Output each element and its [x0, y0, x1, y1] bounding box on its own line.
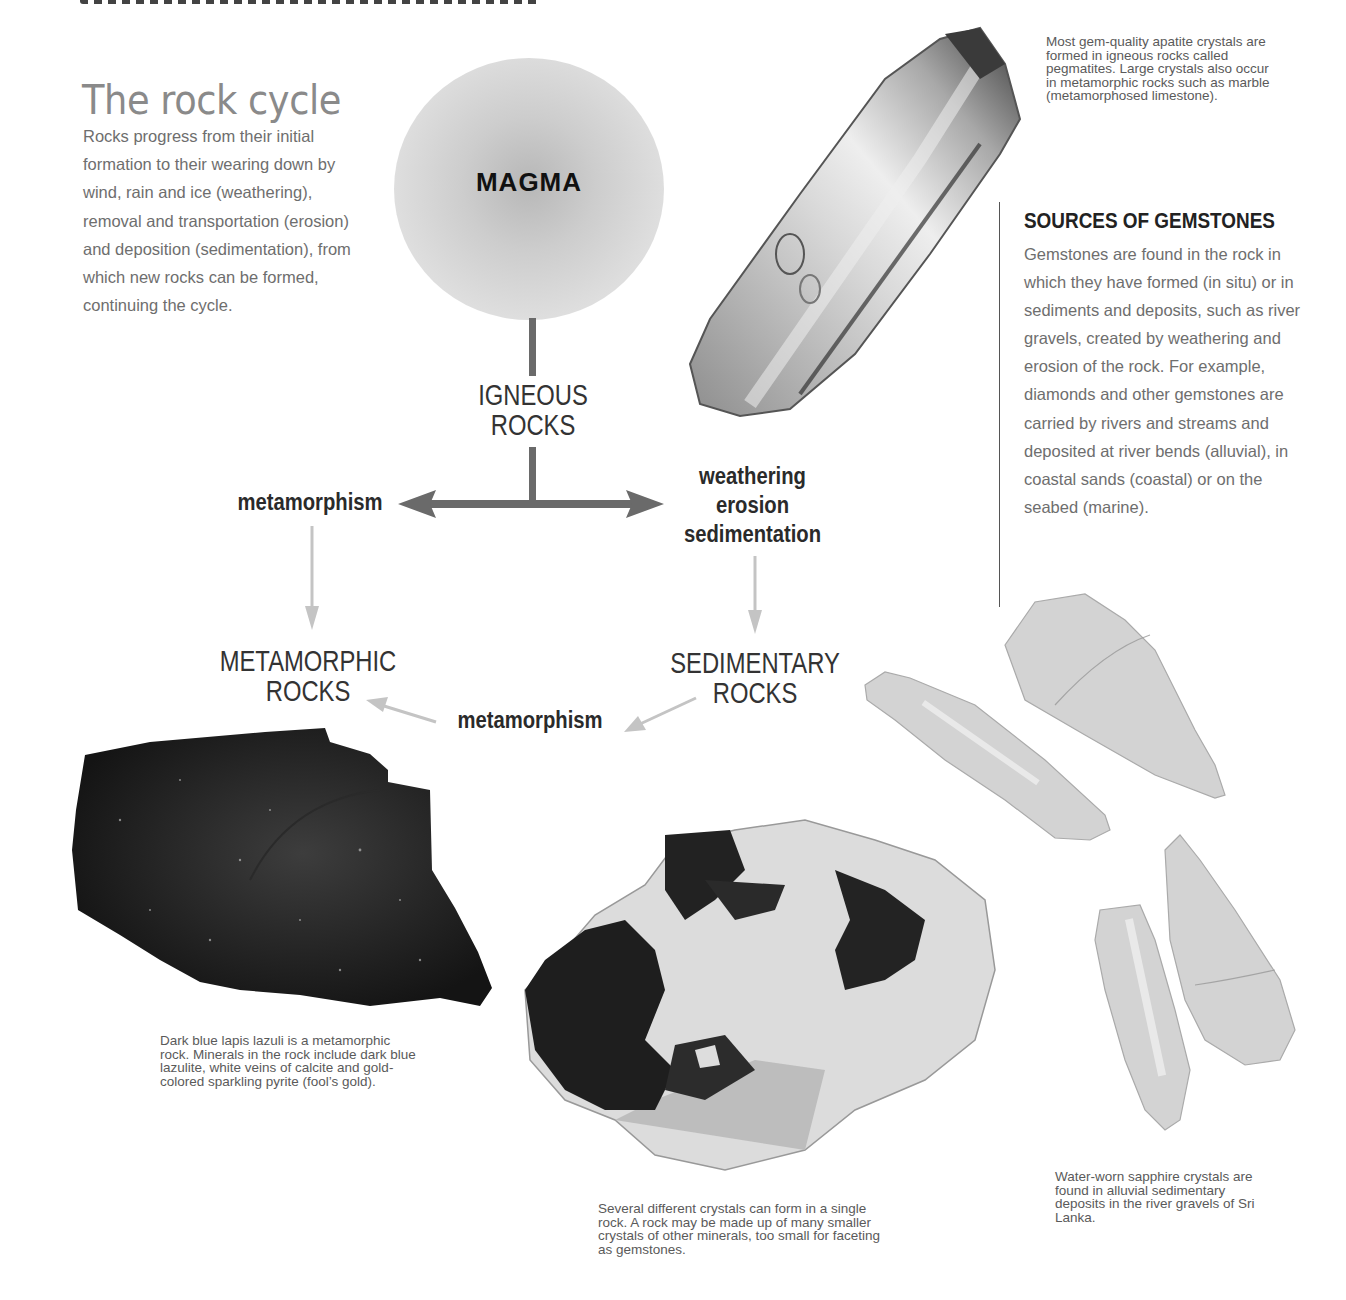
magma-to-igneous-line: [529, 318, 536, 376]
sedimentary-line-1: SEDIMENTARY: [644, 648, 865, 678]
process-erosion: erosion: [671, 491, 834, 520]
cropped-heading-remnant: [80, 0, 540, 4]
process-weathering: weathering: [671, 462, 834, 491]
igneous-stem-line: [529, 447, 536, 504]
sedimentary-rocks-label: SEDIMENTARY ROCKS: [644, 648, 865, 708]
apatite-caption: Most gem-quality apatite crystals are fo…: [1046, 35, 1276, 103]
intro-paragraph: Rocks progress from their initial format…: [83, 122, 368, 319]
page-title: The rock cycle: [82, 76, 341, 124]
metamorphic-line-2: ROCKS: [203, 676, 413, 706]
sapphires-image: [855, 590, 1305, 1140]
process-metamorphism-left: metamorphism: [231, 488, 389, 517]
igneous-line-2: ROCKS: [440, 410, 625, 440]
metamorphic-rocks-label: METAMORPHIC ROCKS: [203, 646, 413, 706]
crystals-caption: Several different crystals can form in a…: [598, 1202, 888, 1256]
lapis-lazuli-image: [40, 720, 500, 1020]
igneous-rocks-label: IGNEOUS ROCKS: [440, 380, 625, 440]
sedimentary-line-2: ROCKS: [644, 678, 865, 708]
sapphire-caption: Water-worn sapphire crystals are found i…: [1055, 1170, 1275, 1224]
lapis-caption: Dark blue lapis lazuli is a metamorphic …: [160, 1034, 422, 1088]
igneous-line-1: IGNEOUS: [440, 380, 625, 410]
arrow-down-icon: [748, 556, 762, 634]
column-divider: [999, 202, 1000, 607]
apatite-crystal-image: [680, 24, 1025, 419]
arrow-down-icon: [305, 526, 319, 630]
process-weathering-group: weathering erosion sedimentation: [671, 462, 834, 549]
metamorphic-line-1: METAMORPHIC: [203, 646, 413, 676]
magma-label: MAGMA: [394, 167, 664, 198]
process-sedimentation: sedimentation: [671, 520, 834, 549]
sources-heading: SOURCES OF GEMSTONES: [1024, 208, 1275, 234]
sources-paragraph: Gemstones are found in the rock in which…: [1024, 240, 1314, 521]
